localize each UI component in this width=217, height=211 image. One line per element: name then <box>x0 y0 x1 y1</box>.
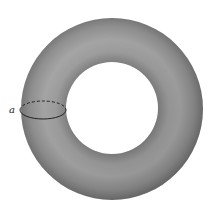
radius-label-a: a <box>9 104 15 115</box>
torus-body <box>21 18 203 200</box>
torus-diagram <box>0 0 217 211</box>
